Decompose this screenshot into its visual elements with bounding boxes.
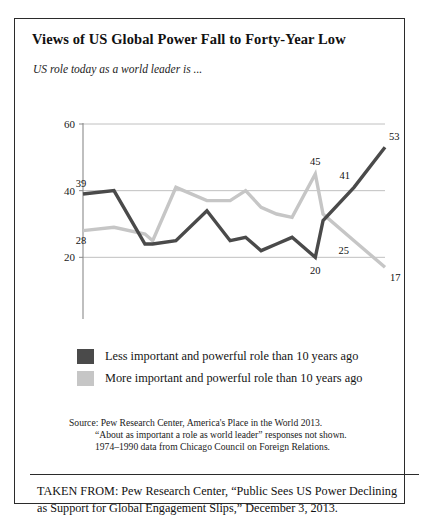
y-tick-labels: 0204060 <box>64 118 76 319</box>
svg-text:20: 20 <box>310 265 321 276</box>
svg-text:45: 45 <box>310 156 321 167</box>
figure-frame: Views of US Global Power Fall to Forty-Y… <box>14 18 405 504</box>
taken-from-note: TAKEN FROM: Pew Research Center, “Public… <box>37 483 409 516</box>
svg-text:28: 28 <box>76 235 87 246</box>
source-note: Source: Pew Research Center, America's P… <box>51 417 396 454</box>
svg-text:40: 40 <box>64 185 76 197</box>
chart-legend: Less important and powerful role than 10… <box>77 349 397 393</box>
source-line-3: 1974–1990 data from Chicago Council on F… <box>51 441 396 453</box>
svg-text:41: 41 <box>340 170 351 181</box>
line-chart-svg: 0204060 19741984199420042013 39284520412… <box>15 19 406 319</box>
source-line-2: “About as important a role as world lead… <box>51 429 396 441</box>
svg-text:60: 60 <box>64 118 76 130</box>
legend-item-more: More important and powerful role than 10… <box>77 371 397 386</box>
svg-text:39: 39 <box>76 178 87 189</box>
svg-text:53: 53 <box>389 131 400 142</box>
svg-text:20: 20 <box>64 251 76 263</box>
chart-plot-area: 0204060 19741984199420042013 39284520412… <box>15 19 406 319</box>
gridlines <box>83 124 385 257</box>
legend-label-more: More important and powerful role than 10… <box>105 371 362 386</box>
legend-item-less: Less important and powerful role than 10… <box>77 349 397 364</box>
svg-text:0: 0 <box>70 318 76 319</box>
svg-text:25: 25 <box>339 245 350 256</box>
source-line-1: Source: Pew Research Center, America's P… <box>51 417 396 429</box>
legend-swatch-less <box>77 349 94 364</box>
axes <box>79 123 385 319</box>
svg-text:17: 17 <box>390 272 401 283</box>
section-divider <box>30 474 419 475</box>
legend-label-less: Less important and powerful role than 10… <box>105 349 358 364</box>
legend-swatch-more <box>77 371 94 386</box>
